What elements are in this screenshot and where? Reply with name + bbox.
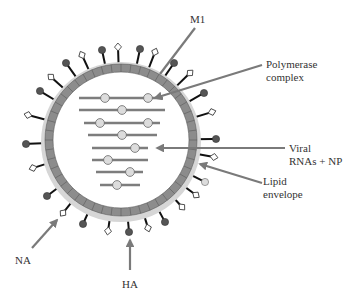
ha-hemagglutinin-icon	[136, 45, 143, 52]
ha-hemagglutinin-icon	[22, 140, 29, 147]
label-viral-line1: Viral	[289, 142, 311, 154]
na-diamond-head	[150, 47, 159, 57]
ha-hemagglutinin-icon	[43, 192, 50, 199]
na-neuraminidase-icon	[114, 43, 121, 51]
na-diamond-head	[23, 111, 33, 120]
ha-hemagglutinin-icon	[201, 178, 208, 185]
influenza-virion-diagram: M1 Polymerase complex Viral RNAs + NP Li…	[0, 0, 351, 299]
label-lipid-line1: Lipid	[263, 175, 287, 187]
na-neuraminidase-icon	[143, 223, 152, 233]
label-ha: HA	[122, 278, 138, 290]
np-nucleoprotein-icon	[126, 168, 135, 177]
ha-hemagglutinin-icon	[36, 87, 43, 94]
label-viral-line2: RNAs + NP	[289, 155, 342, 167]
na-neuraminidase-icon	[209, 153, 218, 161]
np-nucleoprotein-icon	[101, 94, 110, 103]
label-polymerase-line2: complex	[266, 71, 304, 83]
na-neuraminidase-icon	[150, 47, 159, 57]
label-polymerase-line1: Polymerase	[266, 58, 317, 70]
lipid-envelope-membrane	[41, 62, 201, 222]
na-diamond-head	[104, 227, 112, 236]
na-diamond-head	[207, 107, 217, 116]
ha-hemagglutinin-icon	[62, 59, 69, 66]
na-neuraminidase-icon	[23, 111, 33, 120]
ha-hemagglutinin-icon	[200, 89, 207, 96]
na-neuraminidase-icon	[77, 50, 87, 60]
ha-hemagglutinin-icon	[161, 218, 168, 225]
np-nucleoprotein-icon	[104, 156, 113, 165]
ha-hemagglutinin-icon	[79, 220, 86, 227]
np-nucleoprotein-icon	[131, 144, 140, 153]
m1-pointer-line	[160, 28, 195, 74]
np-nucleoprotein-icon	[118, 131, 127, 140]
lipid-pointer-arrow-icon	[200, 164, 262, 183]
na-diamond-head	[114, 43, 121, 51]
na-neuraminidase-icon	[207, 107, 217, 116]
np-nucleoprotein-icon	[144, 119, 153, 128]
na-pointer-arrow-icon	[32, 220, 57, 248]
na-diamond-head	[28, 163, 38, 172]
ha-hemagglutinin-icon	[212, 135, 219, 142]
np-nucleoprotein-icon	[96, 119, 105, 128]
ha-hemagglutinin-icon	[98, 46, 105, 53]
na-neuraminidase-icon	[28, 163, 38, 172]
na-diamond-head	[209, 153, 218, 161]
na-diamond-head	[143, 223, 152, 233]
np-nucleoprotein-icon	[118, 106, 127, 115]
label-m1: M1	[190, 13, 205, 25]
na-diamond-head	[77, 50, 87, 60]
np-nucleoprotein-icon	[113, 181, 122, 190]
na-neuraminidase-icon	[104, 227, 112, 236]
label-na: NA	[15, 254, 31, 266]
label-lipid-line2: envelope	[263, 188, 303, 200]
np-nucleoprotein-icon	[144, 94, 153, 103]
ha-hemagglutinin-icon	[125, 228, 132, 235]
